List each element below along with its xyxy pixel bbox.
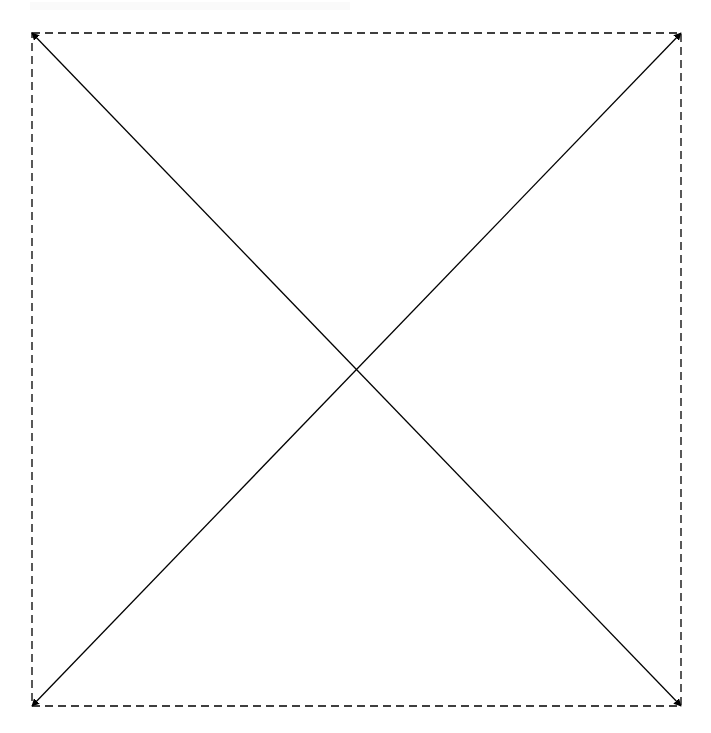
placeholder-diagram: [0, 0, 711, 733]
